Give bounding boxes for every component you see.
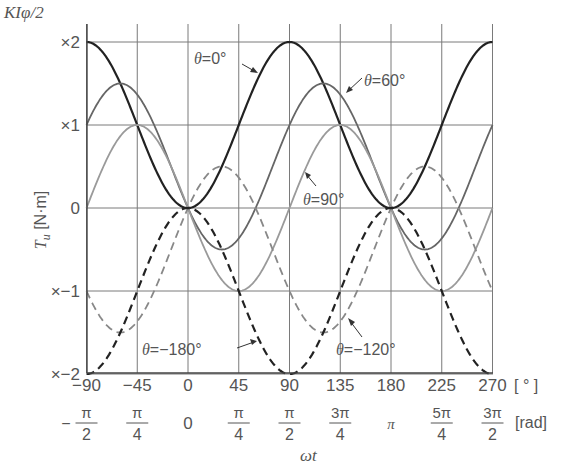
svg-text:−: − [61, 415, 70, 432]
x-deg-unit: [ ° ] [514, 377, 538, 394]
annotation-theta-m180: θ=−180° [142, 339, 257, 358]
x-tick-label-rad: π4 [126, 404, 148, 443]
x-tick-label-rad: π2− [61, 404, 97, 443]
x-rad-unit: [rad] [515, 414, 547, 431]
torque-waveform-chart: KIφ/2 ×2×10×−1×−2 Tu [N·m] −90−450459013… [0, 0, 583, 475]
x-tick-label-deg: 45 [229, 376, 248, 395]
x-tick-label-rad: 3π4 [329, 404, 351, 443]
y-tick-label: ×−1 [51, 282, 80, 301]
x-tick-label-deg: 0 [183, 376, 192, 395]
x-axis-title: ωt [300, 446, 318, 465]
arrow-head-icon [250, 67, 258, 73]
x-tick-label-deg: 135 [326, 376, 354, 395]
y-tick-label: ×2 [61, 33, 80, 52]
svg-text:θ=60°: θ=60° [364, 72, 405, 89]
y-axis-title: Tu [N·m] [32, 191, 53, 249]
arrow-head-icon [250, 339, 257, 345]
svg-text:3π: 3π [483, 404, 502, 421]
svg-text:Tu [N·m]: Tu [N·m] [32, 191, 53, 249]
svg-text:2: 2 [285, 426, 294, 443]
x-tick-label-deg: −90 [72, 376, 101, 395]
x-tick-label-rad: 0 [183, 414, 192, 433]
svg-text:π: π [81, 404, 91, 421]
x-tick-labels-deg: −90−4504590135180225270 [72, 376, 507, 395]
annotation-theta-60: θ=60° [346, 72, 405, 93]
svg-text:θ=90°: θ=90° [303, 191, 344, 208]
x-tick-label-rad: 3π2 [482, 404, 504, 443]
x-tick-label-deg: 90 [280, 376, 299, 395]
svg-text:θ=−120°: θ=−120° [336, 341, 396, 358]
svg-text:4: 4 [437, 426, 446, 443]
arrow-head-icon [348, 318, 355, 326]
x-tick-label-deg: 270 [478, 376, 506, 395]
x-tick-label-deg: 225 [428, 376, 456, 395]
svg-text:π: π [234, 404, 244, 421]
grid-lines [87, 24, 494, 374]
svg-text:3π: 3π [331, 404, 350, 421]
svg-text:π: π [132, 404, 142, 421]
x-tick-label-deg: 180 [377, 376, 405, 395]
svg-text:π: π [387, 416, 395, 432]
x-tick-label-rad: π [387, 416, 395, 432]
x-tick-label-rad: π2 [279, 404, 301, 443]
svg-text:4: 4 [336, 426, 345, 443]
svg-text:5π: 5π [432, 404, 451, 421]
svg-text:2: 2 [488, 426, 497, 443]
y-tick-labels: ×2×10×−1×−2 [51, 33, 80, 384]
y-unit-label: KIφ/2 [3, 3, 44, 22]
svg-text:θ=0°: θ=0° [194, 50, 227, 67]
y-tick-label: ×1 [61, 116, 80, 135]
svg-text:4: 4 [133, 426, 142, 443]
svg-text:θ=−180°: θ=−180° [142, 341, 202, 358]
svg-text:0: 0 [183, 414, 192, 433]
svg-text:2: 2 [82, 426, 91, 443]
svg-text:4: 4 [234, 426, 243, 443]
x-tick-labels-rad: π2−π40π4π23π4π5π43π2 [61, 404, 503, 443]
y-tick-label: 0 [71, 199, 80, 218]
y-axis-unit: [N·m] [32, 191, 49, 235]
arrow-head-icon [305, 172, 311, 179]
svg-text:π: π [284, 404, 294, 421]
annotation-theta-90: θ=90° [303, 172, 344, 208]
x-tick-label-rad: π4 [228, 404, 250, 443]
x-tick-label-rad: 5π4 [431, 404, 453, 443]
x-tick-label-deg: −45 [123, 376, 152, 395]
annotation-theta-m120: θ=−120° [336, 318, 396, 358]
annotation-theta-0: θ=0° [194, 50, 258, 73]
